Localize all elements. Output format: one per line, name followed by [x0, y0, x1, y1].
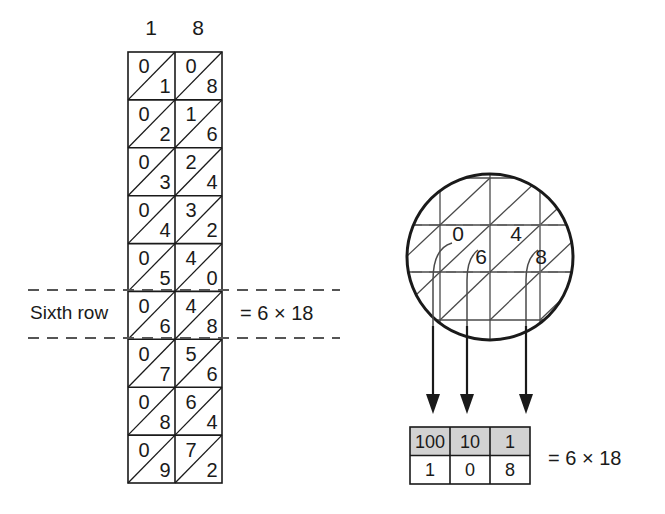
magnified-digit-0: 0: [447, 222, 469, 246]
lattice-cell-r2c1-lower: 2: [155, 123, 175, 146]
lattice-cell-r7c2-upper: 5: [181, 343, 201, 366]
lattice-cell-r6c2-lower: 8: [202, 315, 222, 338]
sixth-row-label: Sixth row: [30, 302, 108, 324]
figure-linework: [0, 0, 665, 514]
lattice-cell-r6c1-lower: 6: [155, 315, 175, 338]
lattice-column-header-2: 8: [175, 16, 221, 40]
lattice-cell-r9c1-upper: 0: [134, 439, 154, 462]
lattice-cell-r2c2-lower: 6: [202, 123, 222, 146]
place-value-header-tens: 10: [450, 432, 490, 453]
lattice-cell-r5c1-upper: 0: [134, 247, 154, 270]
lattice-cell-r6c1-upper: 0: [134, 295, 154, 318]
lattice-cell-r9c2-upper: 7: [181, 439, 201, 462]
lattice-cell-r3c2-lower: 4: [202, 171, 222, 194]
lattice-cell-r4c1-upper: 0: [134, 199, 154, 222]
place-value-header-hundreds: 100: [410, 432, 450, 453]
lattice-cell-r2c1-upper: 0: [134, 103, 154, 126]
lattice-cell-r1c2-upper: 0: [181, 55, 201, 78]
lattice-cell-r9c1-lower: 9: [155, 459, 175, 482]
figure-canvas: 1 8 0 1 0 8 0 2 1 6 0 3 2 4 0 4 3 2 0 5 …: [0, 0, 665, 514]
place-value-digit-ones: 8: [490, 460, 530, 481]
place-value-digit-tens: 0: [450, 460, 490, 481]
lattice-cell-r2c2-upper: 1: [181, 103, 201, 126]
lattice-cell-r4c2-lower: 2: [202, 219, 222, 242]
lattice-cell-r3c1-lower: 3: [155, 171, 175, 194]
lattice-cell-r8c1-lower: 8: [155, 411, 175, 434]
lattice-cell-r4c2-upper: 3: [181, 199, 201, 222]
lattice-cell-r7c1-upper: 0: [134, 343, 154, 366]
place-value-digit-hundreds: 1: [410, 460, 450, 481]
lattice-cell-r5c2-lower: 0: [202, 267, 222, 290]
lattice-cell-r7c2-lower: 6: [202, 363, 222, 386]
lattice-cell-r8c2-upper: 6: [181, 391, 201, 414]
lattice-cell-r3c1-upper: 0: [134, 151, 154, 174]
lattice-cell-r8c2-lower: 4: [202, 411, 222, 434]
lattice-cell-r7c1-lower: 7: [155, 363, 175, 386]
lattice-cell-r3c2-upper: 2: [181, 151, 201, 174]
place-value-equation: = 6 × 18: [548, 447, 621, 470]
lattice-cell-r1c1-upper: 0: [134, 55, 154, 78]
lattice-cell-r8c1-upper: 0: [134, 391, 154, 414]
lattice-cell-r9c2-lower: 2: [202, 459, 222, 482]
lattice-cell-r1c2-lower: 8: [202, 75, 222, 98]
sixth-row-equation: = 6 × 18: [240, 302, 313, 325]
place-value-header-ones: 1: [490, 432, 530, 453]
magnified-digit-6: 6: [470, 245, 492, 269]
lattice-cell-r5c1-lower: 5: [155, 267, 175, 290]
lattice-cell-r1c1-lower: 1: [155, 75, 175, 98]
lattice-cell-r5c2-upper: 4: [181, 247, 201, 270]
lattice-cell-r4c1-lower: 4: [155, 219, 175, 242]
magnified-digit-8: 8: [530, 245, 552, 269]
lattice-column-header-1: 1: [128, 16, 174, 40]
magnified-digit-4: 4: [505, 222, 527, 246]
lattice-cell-r6c2-upper: 4: [181, 295, 201, 318]
